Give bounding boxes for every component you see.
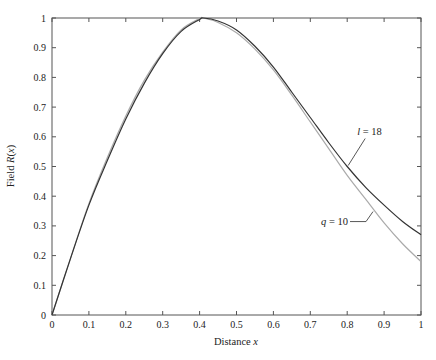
y-tick-label: 0 <box>41 310 46 321</box>
annotation-l18: l = 18 <box>357 126 382 137</box>
annotation-leader <box>350 212 373 222</box>
series-line <box>52 17 421 315</box>
y-axis-label: Field R(x) <box>5 144 17 187</box>
x-axis-label-text: Distance <box>214 336 253 347</box>
x-tick-label: 1 <box>419 319 424 330</box>
y-tick-label: 0.4 <box>34 191 47 202</box>
annotation-leader <box>348 139 365 166</box>
x-tick-label: 0.9 <box>378 319 391 330</box>
x-tick-label: 0.4 <box>193 319 206 330</box>
x-tick-label: 0.8 <box>341 319 354 330</box>
annotation-q10: q = 10 <box>321 216 348 227</box>
plot-frame <box>52 18 421 315</box>
line-chart: 00.10.20.30.40.50.60.70.80.9100.10.20.30… <box>0 0 436 360</box>
x-tick-label: 0.2 <box>120 319 133 330</box>
data-series <box>52 17 421 315</box>
y-tick-label: 0.6 <box>34 131 47 142</box>
x-tick-label: 0.7 <box>304 319 317 330</box>
y-tick-label: 0.2 <box>34 250 47 261</box>
x-tick-label: 0.6 <box>267 319 280 330</box>
y-tick-label: 0.3 <box>34 220 47 231</box>
x-tick-label: 0.5 <box>230 319 243 330</box>
x-tick-label: 0.1 <box>83 319 96 330</box>
y-tick-label: 1 <box>41 13 46 24</box>
y-tick-label: 0.8 <box>34 72 47 83</box>
y-tick-label: 0.9 <box>34 42 47 53</box>
x-axis-label: Distance x <box>214 336 258 347</box>
annotations: l = 18q = 10 <box>321 126 382 228</box>
y-tick-label: 0.7 <box>34 102 47 113</box>
y-tick-label: 0.5 <box>34 161 47 172</box>
x-tick-label: 0 <box>50 319 55 330</box>
x-tick-label: 0.3 <box>156 319 169 330</box>
series-line <box>52 18 421 315</box>
y-tick-label: 0.1 <box>34 280 47 291</box>
axis-ticks <box>52 18 421 315</box>
tick-labels: 00.10.20.30.40.50.60.70.80.9100.10.20.30… <box>34 13 424 331</box>
